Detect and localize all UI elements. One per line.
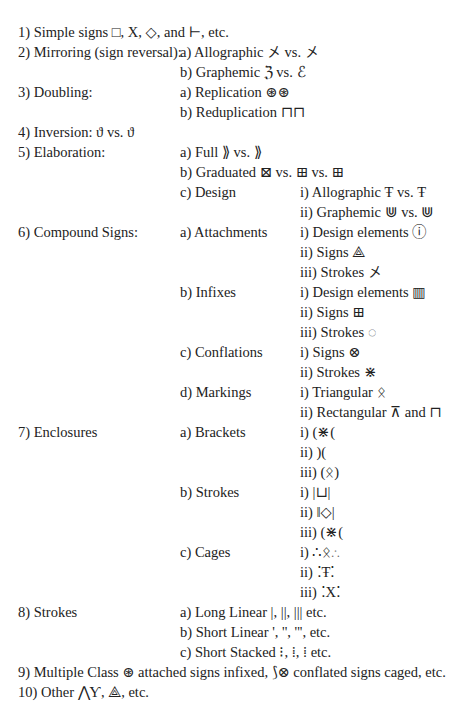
list-item-c3: iii) ⁚Χ⁚ [300, 583, 341, 601]
list-item-c1: 6) Compound Signs: [18, 223, 138, 241]
list-item-c2: b) Infixes [180, 283, 236, 301]
list-item-c3: ii) ‖◇| [300, 503, 335, 521]
list-item-c3: i) Design elements ⓘ [300, 223, 426, 241]
list-item-c3: ii) Signs ⊞ [300, 303, 365, 321]
list-item-c1: 1) Simple signs □, Χ, ◇, and ⊢, etc. [18, 23, 229, 41]
list-item-c3: iii) (ᛟ) [300, 463, 339, 481]
list-item-c2: a) Allographic 㐅 vs. 㐅 [180, 43, 319, 61]
list-item-c2: c) Design [180, 183, 236, 201]
list-item-c2: d) Markings [180, 383, 251, 401]
list-item-c1: 7) Enclosures [18, 423, 97, 441]
list-item-c1: 9) Multiple Class ⊛ attached signs infix… [18, 663, 446, 681]
list-item-c2: b) Reduplication ⊓⊓ [180, 103, 305, 121]
list-item-c3: ii) )( [300, 443, 326, 461]
list-item-c2: c) Short Stacked ⁝, ⁞, ⁞ etc. [180, 643, 331, 661]
list-item-c3: iii) (⋇( [300, 523, 343, 541]
list-item-c2: a) Replication ⊛⊛ [180, 83, 290, 101]
list-item-c2: b) Graduated ⊠ vs. ⊞ vs. ⊞ [180, 163, 344, 181]
list-item-c3: iii) Strokes 㐅 [300, 263, 382, 281]
list-item-c1: 4) Inversion: ϑ vs. ϑ [18, 123, 134, 141]
list-item-c1: 10) Other ⋀Ƴ, ⟁, etc. [18, 683, 149, 701]
list-item-c2: a) Full ⟫ vs. ⟫ [180, 143, 262, 161]
list-item-c3: i) Design elements ▥ [300, 283, 426, 301]
list-item-c2: a) Long Linear |, ||, ||| etc. [180, 603, 327, 621]
list-item-c2: b) Short Linear ', '', ''', etc. [180, 623, 330, 641]
list-item-c2: a) Brackets [180, 423, 246, 441]
list-item-c2: b) Strokes [180, 483, 239, 501]
list-item-c3: ii) Signs ⟁ [300, 243, 365, 261]
list-item-c3: i) Signs ⊗ [300, 343, 361, 361]
list-item-c3: ii) Graphemic ⋓ vs. ⋓ [300, 203, 434, 221]
list-item-c3: i) Triangular ᛟ [300, 383, 386, 401]
list-item-c2: c) Conflations [180, 343, 263, 361]
list-item-c3: ii) ⁚Ŧ⁚ [300, 563, 335, 581]
list-item-c1: 3) Doubling: [18, 83, 93, 101]
list-item-c1: 2) Mirroring (sign reversal): [18, 43, 182, 61]
list-item-c2: c) Cages [180, 543, 230, 561]
list-item-c3: i) ∴ᛟ∴ [300, 543, 340, 561]
list-item-c2: b) Graphemic ℨ vs. ℰ [180, 63, 306, 81]
list-item-c3: i) Allographic Ŧ vs. Ŧ [300, 183, 426, 201]
list-item-c3: ii) Strokes ⋇ [300, 363, 377, 381]
list-item-c3: iii) Strokes ◌ [300, 323, 376, 341]
list-item-c1: 5) Elaboration: [18, 143, 105, 161]
list-item-c3: i) |⊔| [300, 483, 330, 501]
list-item-c2: a) Attachments [180, 223, 267, 241]
list-item-c1: 8) Strokes [18, 603, 77, 621]
list-item-c3: i) (⋇( [300, 423, 335, 441]
list-item-c3: ii) Rectangular ⊼ and ⊓ [300, 403, 442, 421]
